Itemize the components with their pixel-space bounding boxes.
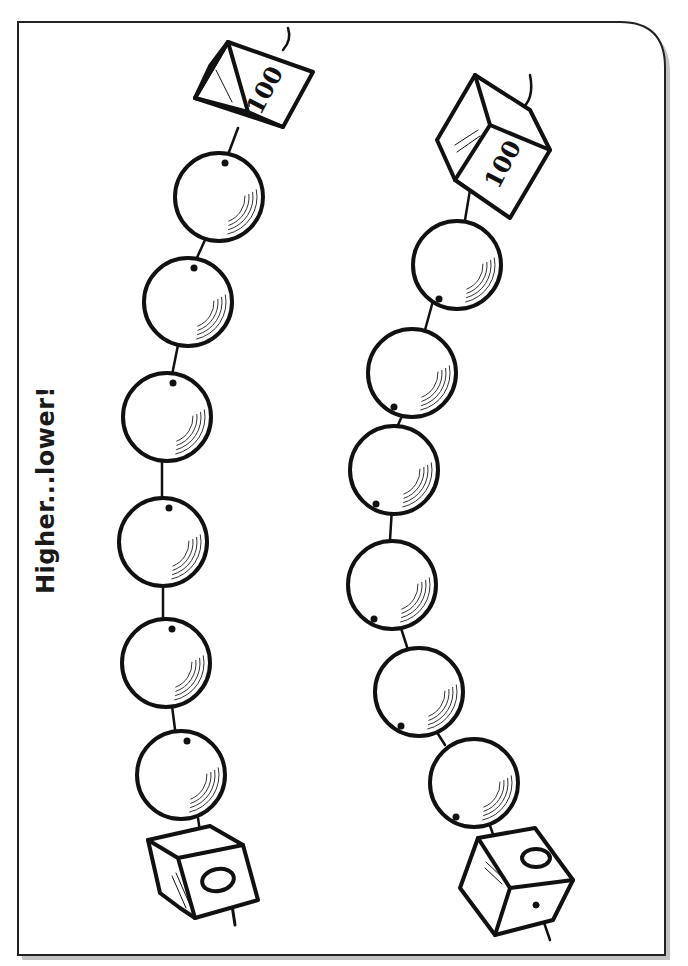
bead-right-5[interactable] — [375, 648, 463, 736]
bead-right-6[interactable] — [430, 739, 518, 827]
worksheet: 100 10 — [0, 0, 688, 966]
bead-left-2[interactable] — [144, 258, 232, 346]
bead-right-3[interactable] — [350, 426, 438, 514]
bead-left-4[interactable] — [119, 498, 207, 586]
bead-left-1[interactable] — [175, 153, 263, 241]
bead-left-3[interactable] — [123, 373, 211, 461]
bead-left-6[interactable] — [137, 731, 225, 819]
worksheet-title: Higher...lower! — [32, 386, 60, 594]
bead-right-2[interactable] — [368, 329, 456, 417]
bead-left-5[interactable] — [122, 619, 210, 707]
bead-right-4[interactable] — [348, 541, 436, 629]
worksheet-frame — [18, 22, 665, 955]
bead-right-1[interactable] — [413, 221, 501, 309]
worksheet-drawing: 100 10 — [0, 0, 688, 966]
